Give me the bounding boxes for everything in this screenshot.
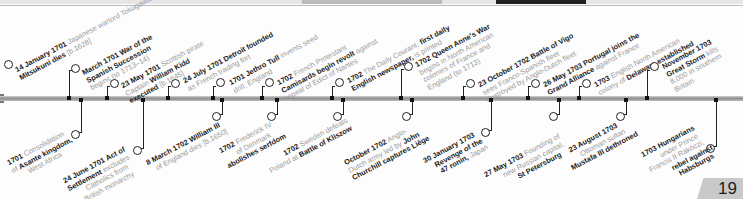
event-label: 8 March 1702 William III of England dies… [145,120,229,175]
timeline-bar [0,96,743,101]
event-elbow [647,70,650,71]
event-marker-icon [171,79,180,88]
top-image-fragment-dark [496,0,586,4]
event-marker-icon [531,79,540,88]
event-stem [647,70,648,98]
event-label: 30 January 1703 Revenge of the 47 ronin,… [422,128,490,180]
timeline-node [399,96,403,100]
timeline-node [105,96,109,100]
event-marker-icon [481,128,490,137]
event-stem [491,100,492,130]
page-number-tab: 19 [697,178,743,199]
timeline-node [645,96,649,100]
event-marker-icon [265,78,274,87]
timeline-node [461,96,465,100]
event-elbow [332,86,335,87]
event-marker-icon [110,79,119,88]
timeline-node [211,96,215,100]
event-stem [401,69,402,98]
event-label: 27 May 1703 Founding of new Russian capi… [483,132,570,194]
page-number: 19 [718,179,737,199]
top-rule [0,5,743,6]
event-marker-icon [71,130,80,139]
event-stem [69,70,70,98]
event-elbow [107,86,110,87]
timeline-node [577,96,581,100]
event-marker-icon [335,78,344,87]
event-marker-icon [4,60,13,69]
event-stem [716,100,717,146]
event-marker-icon [549,112,558,121]
timeline-node [67,96,71,100]
event-marker-icon [133,146,142,155]
event-elbow [262,86,265,87]
event-elbow [463,86,466,87]
event-elbow [579,86,582,87]
event-marker-icon [71,64,80,73]
event-elbow [213,86,216,87]
event-marker-icon [404,62,413,71]
event-label: 24 June 1701 Act of Settlement excludes … [62,146,139,199]
timeline-node [166,96,170,100]
event-stem [412,100,413,114]
event-stem [81,100,82,132]
event-stem [277,100,278,114]
top-image-fragment [302,0,442,4]
event-stem [143,100,144,148]
event-marker-icon [402,112,411,121]
event-label: October 1702 Anglo- Dutch army led by Jo… [343,120,431,183]
event-stem [222,100,223,114]
timeline-node [330,96,334,100]
event-elbow [528,86,531,87]
event-stem [343,100,344,114]
event-marker-icon [216,78,225,87]
event-marker-icon [466,79,475,88]
event-stem [559,100,560,114]
event-stem [626,100,627,114]
timeline-node [526,96,530,100]
event-marker-icon [650,62,659,71]
timeline-node [260,96,264,100]
event-marker-icon [582,79,591,88]
event-elbow [401,69,404,70]
event-label: 23 August 1703 Ottoman sultan Mustafa II… [562,115,640,173]
event-elbow [168,86,171,87]
